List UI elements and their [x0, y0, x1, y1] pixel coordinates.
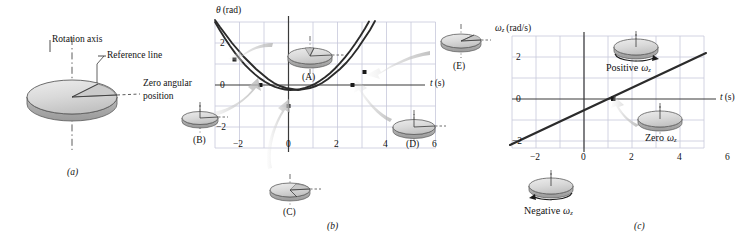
zero-angular-position-label-line2: position [143, 92, 174, 102]
disk-label-D: (D) [406, 140, 419, 150]
disk-c-negative [529, 170, 573, 203]
panel-c-label: (c) [634, 222, 645, 232]
panel-b-x-axis-unit: (s) [435, 78, 445, 88]
panel-c-ytick-neg2: −2 [512, 137, 522, 147]
disk-label-A: (A) [302, 73, 315, 83]
negative-omega-subscript: z [570, 209, 573, 216]
panel-a-label: (a) [67, 168, 78, 178]
panel-b-y-axis-symbol: θ [216, 5, 221, 15]
disk-panel-a [27, 80, 117, 121]
disk-b-D [393, 110, 446, 143]
panel-c-x-axis-unit: (s) [725, 92, 735, 102]
zero-omega-callout: Zeroωz [645, 133, 676, 144]
disk-label-E: (E) [453, 62, 465, 72]
panel-c-zero-arrow [611, 96, 639, 127]
panel-c-xtick-6: 6 [725, 153, 730, 163]
panel-b-y-axis-unit: (rad) [223, 5, 241, 15]
panel-b-xtick-4: 4 [383, 140, 388, 150]
negative-omega-word: Negative [524, 205, 560, 216]
panel-c-ytick-2: 2 [516, 53, 521, 63]
panel-b-ytick-neg2: −2 [216, 123, 226, 133]
panel-b-x-axis-symbol: t [430, 78, 433, 88]
disk-label-B: (B) [193, 136, 206, 146]
panel-b-xtick-0: 0 [286, 140, 291, 150]
rotation-kinematics-figure [0, 0, 753, 242]
disk-b-C [270, 174, 321, 205]
panel-c-x-axis-symbol: t [720, 92, 723, 102]
panel-c-xtick-0: 0 [581, 153, 586, 163]
reference-line-leader [97, 56, 104, 83]
panel-b-xtick-2: 2 [334, 140, 339, 150]
disk-label-C: (C) [283, 208, 296, 218]
panel-b-y-axis-title: θ(rad) [216, 6, 241, 16]
positive-omega-subscript: z [648, 66, 651, 73]
panel-c-ytick-0: 0 [516, 95, 521, 105]
panel-b-ytick-0: 0 [220, 81, 225, 91]
reference-line-label: Reference line [107, 51, 162, 61]
panel-c-xtick-neg2: −2 [530, 153, 540, 163]
panel-b-xtick-neg2: −2 [233, 140, 243, 150]
panel-b-xtick-6: 6 [432, 140, 437, 150]
panel-c-x-axis-title: t(s) [720, 93, 735, 103]
panel-c-xtick-2: 2 [629, 153, 634, 163]
negative-omega-callout: Negativeωz [524, 206, 573, 217]
zero-omega-symbol: ω [667, 132, 674, 143]
panel-c-y-axis-subscript: z [502, 26, 505, 33]
rotation-axis-label: Rotation axis [52, 35, 102, 45]
positive-omega-callout: Positiveωz [606, 63, 651, 74]
panel-b-label: (b) [327, 222, 338, 232]
panel-c-y-axis-symbol: ω [495, 23, 502, 33]
panel-c-y-axis-unit: (rad/s) [506, 23, 531, 33]
panel-c-xtick-4: 4 [677, 153, 682, 163]
zero-omega-word: Zero [645, 132, 664, 143]
zero-angular-position-label-line1: Zero angular [143, 79, 192, 89]
positive-omega-word: Positive [606, 62, 638, 73]
panel-b-x-axis-title: t(s) [430, 79, 445, 89]
disk-b-E [441, 24, 491, 58]
panel-b-ytick-2: 2 [220, 39, 225, 49]
zero-angular-position-pointer [117, 94, 140, 95]
zero-omega-subscript: z [674, 136, 677, 143]
panel-c-y-axis-title: ωz(rad/s) [495, 24, 531, 34]
